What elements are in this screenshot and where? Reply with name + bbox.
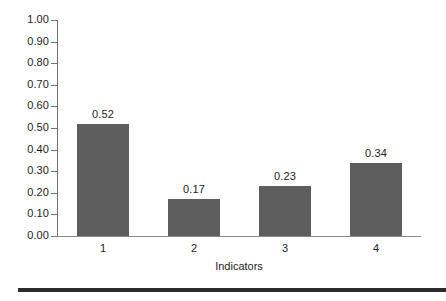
- x-axis-category-label: 4: [330, 242, 422, 254]
- bar: [350, 163, 402, 236]
- bar-value-label: 0.23: [239, 170, 331, 182]
- bottom-rule-divider: [18, 288, 446, 292]
- bar-value-label: 0.34: [330, 147, 422, 159]
- bar-value-label: 0.52: [57, 108, 149, 120]
- bars-layer: 0.5210.1720.2330.344: [0, 0, 446, 301]
- x-axis-category-label: 2: [148, 242, 240, 254]
- bar: [168, 199, 220, 236]
- x-axis-category-label: 1: [57, 242, 149, 254]
- bar: [77, 124, 129, 236]
- x-axis-category-label: 3: [239, 242, 331, 254]
- bar: [259, 186, 311, 236]
- bar-value-label: 0.17: [148, 183, 240, 195]
- x-axis-title: Indicators: [57, 260, 421, 272]
- bar-chart-figure: 1.000.900.800.700.600.500.400.300.200.10…: [0, 0, 446, 301]
